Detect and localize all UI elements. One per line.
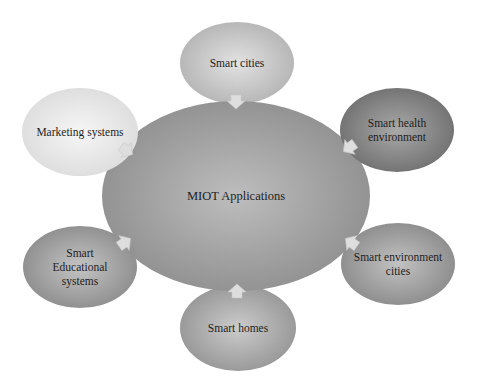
node-ellipse [340,88,454,172]
node-label: Smart cities [210,57,265,69]
node-label: Smart [66,247,94,259]
node-smart-health-environment: Smart healthenvironment [340,88,454,172]
node-label: Smart health [368,117,427,129]
node-ellipse [341,223,455,305]
node-label: Educational [53,261,108,273]
node-label: Marketing systems [36,126,124,139]
node-smart-environment-cities: Smart environmentcities [341,223,455,305]
node-label: systems [62,275,99,288]
node-smart-educational-systems: SmartEducationalsystems [23,226,137,308]
node-label: cities [386,265,411,277]
node-label: Smart environment [354,251,443,263]
center-node: MIOT Applications [102,101,370,291]
miot-applications-diagram: Smart citiesSmart homes MIOT Application… [0,0,477,389]
center-label: MIOT Applications [187,189,285,203]
node-smart-cities: Smart cities [180,22,294,104]
node-label: environment [368,131,427,143]
node-label: Smart homes [208,322,269,334]
node-marketing-systems: Marketing systems [22,88,138,176]
